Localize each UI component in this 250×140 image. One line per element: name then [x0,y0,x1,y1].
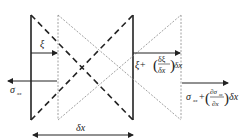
svg-text:xx: xx [218,92,223,97]
xi-label: ξ [40,38,45,50]
svg-text:ξ+: ξ+ [135,59,146,71]
svg-text:∂σ: ∂σ [210,88,217,96]
xi-plus-label: ξ+ ( δξ δx ) δx [135,55,182,75]
svg-text:δx: δx [174,60,182,70]
svg-text:δξ: δξ [158,55,166,64]
deformation-diagram: ξ ξ+ ( δξ δx ) δx σ xx σ xx + ( ∂σ xx ∂x… [0,0,250,140]
delta-x-label: δx [76,122,86,133]
svg-text:xx: xx [192,98,198,103]
original-element [31,15,133,120]
svg-text:σ: σ [186,91,192,102]
sigma-left-label: σ xx [10,84,22,96]
sigma-right-label: σ xx + ( ∂σ xx ∂x ) δx [186,88,239,108]
svg-text:σ: σ [10,84,16,95]
svg-text:δx: δx [158,66,166,75]
svg-text:xx: xx [16,91,22,96]
svg-text:∂x: ∂x [212,100,219,108]
svg-text:δx: δx [229,91,239,102]
